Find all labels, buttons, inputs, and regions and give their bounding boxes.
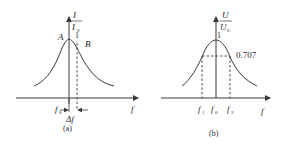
panel-b-caption: (b) (209, 129, 219, 138)
panel-b-x-label: f (261, 106, 265, 116)
panel-b-y-label-numerator: U (222, 10, 229, 20)
resonance-curves-diagram: I I 0 1 A B f 0 Δf f (a) U U 0 1 0.707 f… (0, 0, 283, 147)
panel-a-resonance-curve (34, 39, 114, 86)
panel-b-peak-value: 1 (217, 31, 221, 40)
panel-b-y-label-denominator: U (220, 22, 227, 32)
panel-a: I I 0 1 A B f 0 Δf f (a) (16, 10, 138, 133)
panel-b-resonance-curve (182, 40, 257, 86)
panel-b: U U 0 1 0.707 f 1 f 0 f 2 f (b) (161, 10, 270, 138)
panel-a-y-label-numerator: I (72, 10, 77, 20)
panel-b-tick-f2-sub: 2 (231, 110, 234, 115)
panel-a-f0-sub: 0 (59, 110, 62, 115)
panel-b-level-label: 0.707 (236, 50, 257, 60)
panel-b-tick-f1-sub: 1 (202, 110, 205, 115)
panel-a-delta-f-label: Δf (65, 114, 75, 124)
panel-a-x-label: f (131, 104, 135, 114)
panel-b-tick-f0-sub: 0 (215, 110, 218, 115)
panel-a-caption: (a) (63, 124, 72, 133)
panel-b-y-label-denominator-sub: 0 (227, 28, 230, 33)
panel-a-point-b: B (85, 39, 91, 49)
panel-a-point-a: A (57, 32, 64, 42)
panel-a-peak-value: 1 (75, 31, 79, 40)
